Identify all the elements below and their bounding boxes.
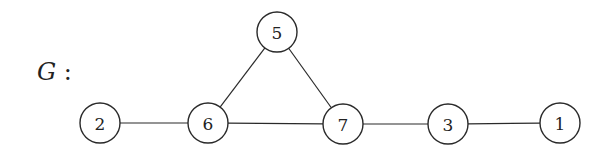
edge-3-1 (468, 123, 540, 124)
node-label: 3 (443, 115, 454, 135)
node-label: 5 (272, 23, 283, 43)
edge-5-7 (289, 48, 332, 107)
node-label: 2 (95, 114, 106, 134)
graph-diagram: 526731 (0, 0, 611, 155)
node-label: 6 (203, 114, 214, 134)
node-6: 6 (188, 103, 228, 143)
node-2: 2 (80, 103, 120, 143)
node-3: 3 (428, 104, 468, 144)
node-5: 5 (257, 12, 297, 52)
edge-5-6 (220, 48, 265, 107)
node-label: 7 (338, 115, 349, 135)
node-1: 1 (540, 103, 580, 143)
node-label: 1 (555, 114, 566, 134)
nodes-layer: 526731 (80, 12, 580, 144)
node-7: 7 (323, 104, 363, 144)
edge-6-7 (228, 123, 323, 124)
